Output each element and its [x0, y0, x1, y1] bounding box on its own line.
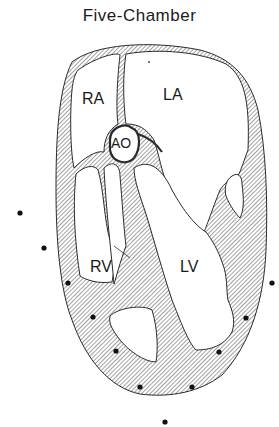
label-la: LA [163, 86, 183, 103]
segment-dot [137, 384, 142, 389]
segment-dot [162, 419, 167, 424]
segment-dot [113, 348, 118, 353]
segment-dot [216, 349, 221, 354]
segment-dot [269, 280, 274, 285]
la-speck [148, 61, 150, 63]
five-chamber-heart-diagram: RA LA AO RV LV [0, 0, 279, 427]
label-rv: RV [90, 258, 112, 275]
label-ra: RA [82, 90, 105, 107]
segment-dot [243, 315, 248, 320]
segment-dot [41, 245, 46, 250]
label-lv: LV [180, 258, 199, 275]
segment-dot [17, 210, 22, 215]
segment-dot [65, 280, 70, 285]
segment-dot [90, 314, 95, 319]
label-ao: AO [111, 135, 131, 151]
segment-dot [189, 384, 194, 389]
